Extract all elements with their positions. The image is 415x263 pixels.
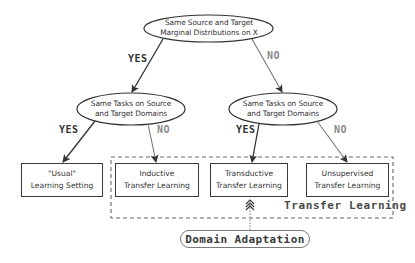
- leaf-transductive-line-2: Transfer Learning: [216, 180, 282, 192]
- left-decision-line-2: and Target Domains: [80, 109, 182, 119]
- transfer-learning-region-label: Transfer Learning: [284, 199, 407, 212]
- leaf-unsupervised-line-2: Transfer Learning: [315, 180, 381, 192]
- root-line-2: Marginal Distributions on X: [148, 28, 270, 38]
- root-no-arrow: [252, 39, 282, 92]
- leaf-inductive-line-1: Inductive: [124, 168, 190, 180]
- leaf-inductive-transfer-learning: Inductive Transfer Learning: [115, 163, 199, 197]
- domain-adaptation-pill: Domain Adaptation: [180, 230, 310, 248]
- root-yes-label: YES: [128, 53, 148, 64]
- root-line-1: Same Source and Target: [148, 18, 270, 28]
- right-decision-line-2: and Target Domains: [232, 109, 334, 119]
- leaf-transductive-transfer-learning: Transductive Transfer Learning: [210, 163, 288, 197]
- leaf-usual-line-2: Learning Setting: [31, 180, 94, 192]
- leaf-inductive-line-2: Transfer Learning: [124, 180, 190, 192]
- left-no-arrow: [148, 124, 156, 162]
- right-yes-label: YES: [236, 124, 256, 135]
- leaf-usual-line-1: "Usual": [31, 168, 94, 180]
- leaf-usual-learning-setting: "Usual" Learning Setting: [21, 163, 103, 197]
- left-decision-line-1: Same Tasks on Source: [80, 99, 182, 109]
- leaf-transductive-line-1: Transductive: [216, 168, 282, 180]
- left-no-label: NO: [157, 124, 170, 135]
- root-no-label: NO: [267, 50, 280, 61]
- right-decision-label: Same Tasks on Source and Target Domains: [232, 99, 334, 119]
- root-yes-arrow: [132, 39, 163, 92]
- transfer-learning-diagram: Same Source and Target Marginal Distribu…: [0, 0, 415, 263]
- domain-adaptation-label: Domain Adaptation: [185, 233, 304, 246]
- left-yes-label: YES: [59, 124, 79, 135]
- leaf-unsupervised-transfer-learning: Unsupervised Transfer Learning: [306, 163, 389, 197]
- left-decision-label: Same Tasks on Source and Target Domains: [80, 99, 182, 119]
- leaf-unsupervised-line-1: Unsupervised: [315, 168, 381, 180]
- right-decision-line-1: Same Tasks on Source: [232, 99, 334, 109]
- root-decision-label: Same Source and Target Marginal Distribu…: [148, 18, 270, 38]
- right-no-label: NO: [334, 124, 347, 135]
